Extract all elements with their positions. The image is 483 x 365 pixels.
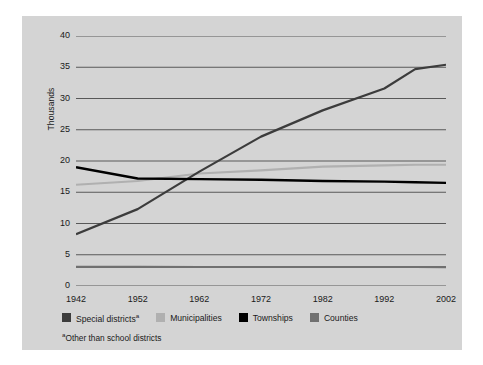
y-tick-label: 5: [44, 249, 70, 259]
y-tick-label: 10: [44, 218, 70, 228]
plot-area: [76, 36, 446, 286]
legend-entry: Counties: [310, 313, 358, 323]
y-tick-label: 35: [44, 61, 70, 71]
legend-entry: Townships: [239, 313, 293, 323]
chart-figure: Thousands 0510152025303540 1942195219621…: [22, 16, 462, 350]
y-tick-label: 20: [44, 155, 70, 165]
legend-label: Special districtsa: [76, 312, 139, 324]
chart-legend: Special districtsaMunicipalitiesTownship…: [62, 312, 375, 324]
y-tick-label: 40: [44, 30, 70, 40]
footnote-text: Other than school districts: [65, 333, 161, 343]
legend-footnote-marker: a: [136, 312, 139, 319]
x-tick-label: 1982: [303, 294, 343, 304]
x-tick-label: 1952: [118, 294, 158, 304]
y-axis-title: Thousands: [46, 64, 56, 154]
legend-swatch-icon: [156, 313, 165, 322]
y-tick-label: 0: [44, 280, 70, 290]
series-line: [76, 65, 446, 234]
legend-label: Counties: [324, 313, 358, 323]
chart-footnote: aOther than school districts: [62, 331, 161, 343]
x-tick-label: 1942: [56, 294, 96, 304]
legend-swatch-icon: [310, 313, 319, 322]
legend-entry: Special districtsa: [62, 312, 139, 324]
legend-label: Townships: [253, 313, 293, 323]
y-tick-label: 30: [44, 93, 70, 103]
legend-swatch-icon: [62, 313, 71, 322]
x-tick-label: 1962: [179, 294, 219, 304]
x-tick-label: 2002: [426, 294, 466, 304]
y-tick-label: 25: [44, 124, 70, 134]
legend-label: Municipalities: [170, 313, 222, 323]
legend-swatch-icon: [239, 313, 248, 322]
line-chart-canvas: [76, 36, 446, 286]
legend-entry: Municipalities: [156, 313, 222, 323]
x-tick-label: 1972: [241, 294, 281, 304]
y-tick-label: 15: [44, 186, 70, 196]
x-tick-label: 1992: [364, 294, 404, 304]
